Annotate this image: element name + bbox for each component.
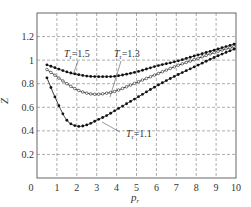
data-point [185, 69, 188, 72]
data-point [113, 109, 116, 112]
data-point [62, 80, 65, 83]
data-point [85, 75, 88, 78]
data-point [185, 61, 188, 64]
data-point [153, 86, 156, 89]
data-point [145, 68, 148, 71]
data-point [97, 118, 100, 121]
data-point [217, 54, 220, 57]
data-point [181, 58, 184, 61]
y-tick-label: 1.2 [22, 31, 35, 42]
y-tick-label: 1 [29, 55, 34, 66]
data-point [221, 49, 224, 52]
data-point [113, 75, 116, 78]
data-point [46, 68, 49, 71]
annotation-label: Tr=1.5 [64, 48, 90, 60]
data-point [173, 66, 176, 69]
data-point [225, 51, 228, 54]
data-point [61, 112, 64, 115]
data-point [205, 54, 208, 57]
data-point [217, 50, 220, 53]
data-point [77, 89, 80, 92]
data-point [185, 57, 188, 60]
data-point [46, 76, 49, 79]
x-tick-label: 7 [174, 182, 179, 193]
data-point [149, 88, 152, 91]
data-point [213, 51, 216, 54]
x-tick-label: 2 [74, 182, 79, 193]
data-point [50, 65, 53, 68]
data-point [57, 68, 60, 71]
data-point [141, 79, 144, 82]
data-point [93, 75, 96, 78]
data-point [85, 92, 88, 95]
data-point [189, 56, 192, 59]
data-point [133, 98, 136, 101]
data-point [145, 90, 148, 93]
data-point [205, 60, 208, 63]
data-point [113, 90, 116, 93]
data-point [229, 46, 232, 49]
data-point [173, 60, 176, 63]
y-tick-label: 0.6 [22, 102, 35, 113]
data-point [101, 75, 104, 78]
data-point [58, 77, 61, 80]
data-point [50, 86, 53, 89]
data-point [169, 67, 172, 70]
data-point [145, 77, 148, 80]
y-axis-ticks: 0.20.40.60.811.2 [22, 31, 35, 160]
data-point [69, 122, 72, 125]
data-point [129, 84, 132, 87]
y-axis-label: Z [0, 97, 10, 104]
data-point [65, 71, 68, 74]
data-point [50, 71, 53, 74]
data-point [61, 69, 64, 72]
data-point [201, 56, 204, 59]
data-point [141, 69, 144, 72]
data-point [93, 120, 96, 123]
x-tick-label: 6 [154, 182, 159, 193]
data-point [117, 107, 120, 110]
data-point [125, 102, 128, 105]
data-point [121, 87, 124, 90]
data-point [157, 72, 160, 75]
data-point [89, 122, 92, 125]
data-point [201, 62, 204, 65]
data-point [193, 66, 196, 69]
data-point [57, 104, 60, 107]
data-point [117, 89, 120, 92]
data-point [133, 82, 136, 85]
data-point [129, 100, 132, 103]
data-point [189, 60, 192, 63]
data-point [77, 73, 80, 76]
data-point [197, 53, 200, 56]
x-axis-label: pr [130, 191, 140, 205]
data-point [173, 75, 176, 78]
y-tick-label: 0.2 [22, 149, 35, 160]
data-point [97, 93, 100, 96]
data-point [117, 74, 120, 77]
data-point [81, 91, 84, 94]
data-point [97, 75, 100, 78]
data-point [73, 124, 76, 127]
data-point [233, 48, 236, 51]
data-point [109, 112, 112, 115]
data-point [85, 124, 88, 127]
x-tick-label: 1 [54, 182, 59, 193]
data-point [101, 93, 104, 96]
data-point [93, 93, 96, 96]
data-point [54, 66, 57, 69]
data-point [137, 70, 140, 73]
grid-lines [37, 13, 236, 178]
chart-canvas: 0.20.40.60.811.2 012345678910 Z pr Tr=1.… [0, 0, 251, 207]
data-point [77, 125, 80, 128]
data-point [201, 52, 204, 55]
data-point [181, 71, 184, 74]
data-point [189, 67, 192, 70]
data-point [229, 49, 232, 52]
data-point [81, 125, 84, 128]
x-tick-label: 10 [231, 182, 241, 193]
data-point [54, 96, 57, 99]
data-point [109, 75, 112, 78]
data-point [157, 64, 160, 67]
data-point [101, 116, 104, 119]
